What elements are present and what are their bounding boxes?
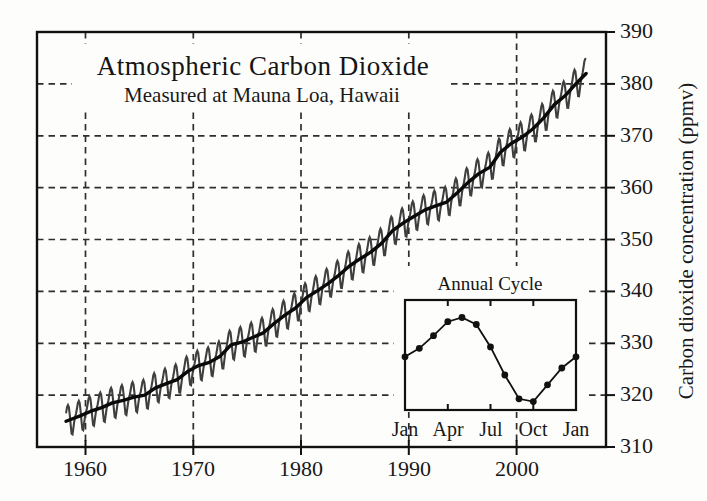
annual-cycle-inset [402, 300, 580, 410]
inset-data-point [430, 332, 437, 339]
inset-data-point [473, 321, 480, 328]
y-tick-label: 320 [620, 381, 653, 407]
inset-data-point [573, 353, 580, 360]
keeling-curve-figure: Atmospheric Carbon Dioxide Measured at M… [0, 0, 707, 501]
inset-data-point [558, 365, 565, 372]
chart-subtitle: Measured at Mauna Loa, Hawaii [124, 83, 400, 108]
x-tick-label: 1960 [63, 456, 107, 482]
inset-month-label: Jan [392, 418, 419, 441]
x-tick-label: 1980 [279, 456, 323, 482]
y-tick-label: 310 [620, 433, 653, 459]
y-tick-label: 340 [620, 277, 653, 303]
inset-data-point [444, 318, 451, 325]
inset-month-label: Jan [563, 418, 590, 441]
inset-data-point [416, 345, 423, 352]
x-tick-label: 1970 [171, 456, 215, 482]
inset-data-point [402, 353, 409, 360]
inset-month-label: Apr [432, 418, 463, 441]
inset-data-point [459, 314, 466, 321]
y-tick-label: 360 [620, 174, 653, 200]
y-tick-label: 380 [620, 70, 653, 96]
x-tick-label: 1990 [387, 456, 431, 482]
y-tick-label: 350 [620, 226, 653, 252]
inset-data-point [487, 344, 494, 351]
inset-title: Annual Cycle [437, 273, 542, 295]
y-axis-label: Carbon dioxide concentration (ppmv) [674, 83, 699, 400]
y-tick-label: 390 [620, 18, 653, 44]
inset-month-label: Jul [479, 418, 502, 441]
inset-data-point [501, 372, 508, 379]
inset-data-point [544, 381, 551, 388]
y-tick-label: 330 [620, 329, 653, 355]
inset-data-point [530, 398, 537, 405]
inset-month-label: Oct [519, 418, 548, 441]
x-tick-label: 2000 [495, 456, 539, 482]
y-tick-label: 370 [620, 122, 653, 148]
inset-data-point [516, 395, 523, 402]
chart-title: Atmospheric Carbon Dioxide [97, 51, 429, 82]
